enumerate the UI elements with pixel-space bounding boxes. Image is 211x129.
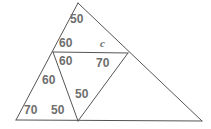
angle-label-bottom-mid-left: 50	[51, 104, 64, 116]
geometry-figure: 50 60 c 60 70 60 50 70 50	[0, 0, 211, 129]
angle-label-bottom-left: 70	[24, 104, 37, 116]
segment-baseline	[16, 120, 202, 121]
angle-label-top-apex: 50	[70, 13, 83, 25]
angle-label-unknown-c: c	[100, 38, 105, 49]
angle-label-mid-left-lower: 60	[42, 74, 55, 86]
angle-label-center-bottom: 50	[75, 88, 88, 100]
angle-label-right-interior: 70	[96, 57, 109, 69]
segment-horizontal-transversal	[53, 52, 128, 53]
angle-label-lower-left: 60	[59, 55, 72, 67]
angle-label-upper-left: 60	[59, 37, 72, 49]
